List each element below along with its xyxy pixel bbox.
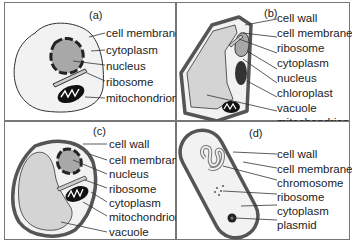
fungal-cell-drawing <box>5 122 177 241</box>
label-chloroplast: chloroplast <box>277 87 333 99</box>
label-plasmid: plasmid <box>277 219 317 231</box>
label-cytoplasm: cytoplasm <box>106 44 158 56</box>
panel-animal-cell: (a) cell membrane cytoplasm nucleus ribo… <box>4 2 176 121</box>
label-vacuole: vacuole <box>277 102 317 114</box>
label-nucleus: nucleus <box>106 60 146 72</box>
panel-bacterial-cell: (d) cell wall cell membrane chromosome r… <box>176 121 350 240</box>
label-ribosome: ribosome <box>277 191 324 203</box>
panel-tag: (b) <box>264 7 277 19</box>
label-cell-membrane: cell membrane <box>109 154 184 166</box>
label-nucleus: nucleus <box>109 168 149 180</box>
label-mitochondrion: mitochondrion <box>106 92 178 104</box>
cell-diagram-grid: (a) cell membrane cytoplasm nucleus ribo… <box>0 0 352 242</box>
label-cell-membrane: cell membrane <box>277 27 352 39</box>
label-ribosome: ribosome <box>109 183 156 195</box>
label-cell-wall: cell wall <box>109 138 149 150</box>
panel-tag: (d) <box>249 127 262 139</box>
panel-fungal-cell: (c) cell wall cell membrane nucleus ribo… <box>4 121 176 240</box>
label-cell-membrane: cell membrane <box>106 27 181 39</box>
label-cell-membrane: cell membrane <box>277 163 352 175</box>
panel-plant-cell: (b) cell wall cell membrane ribosome cyt… <box>176 2 350 121</box>
panel-tag: (c) <box>93 125 106 137</box>
label-chromosome: chromosome <box>277 177 343 189</box>
label-cell-wall: cell wall <box>277 12 317 24</box>
label-cell-wall: cell wall <box>277 148 317 160</box>
label-ribosome: ribosome <box>106 76 153 88</box>
label-cytoplasm: cytoplasm <box>109 197 161 209</box>
label-cytoplasm: cytoplasm <box>277 205 329 217</box>
label-ribosome: ribosome <box>277 42 324 54</box>
label-nucleus: nucleus <box>277 72 317 84</box>
label-mitochondrion: mitochondrion <box>109 211 181 223</box>
label-vacuole: vacuole <box>109 226 149 238</box>
panel-tag: (a) <box>89 9 102 21</box>
label-cytoplasm: cytoplasm <box>277 57 329 69</box>
